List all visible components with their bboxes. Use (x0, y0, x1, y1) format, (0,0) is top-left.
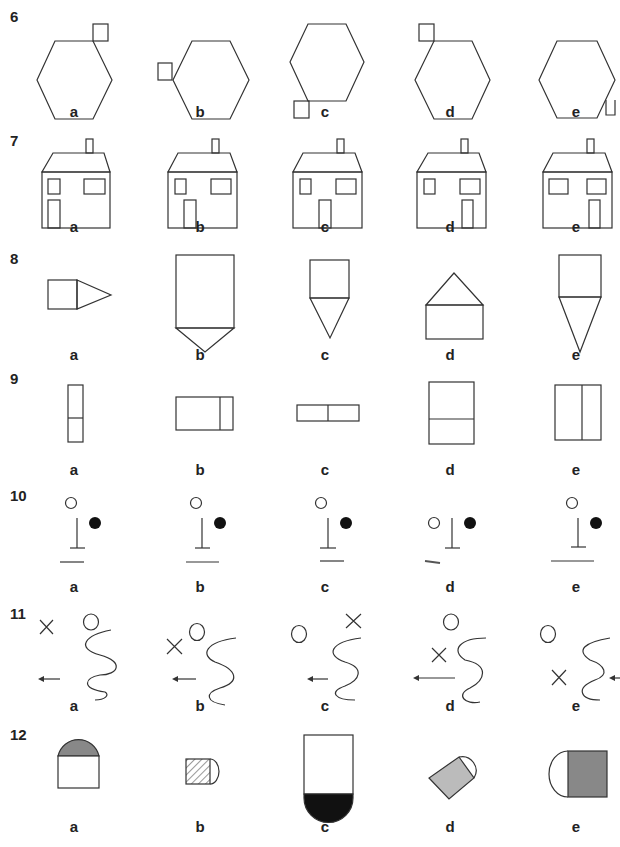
q12-option-b-label[interactable]: b (190, 818, 210, 835)
q12-option-d-figure (429, 757, 476, 799)
q8-option-a-label[interactable]: a (64, 346, 84, 363)
q8-option-c-figure (310, 260, 349, 338)
q11-option-c-label[interactable]: c (315, 697, 335, 714)
q6-option-a-label[interactable]: a (64, 103, 84, 120)
q6-option-b-label[interactable]: b (190, 103, 210, 120)
q10-option-c-label[interactable]: c (315, 578, 335, 595)
q10-option-d-label[interactable]: d (440, 578, 460, 595)
q12-option-c-label[interactable]: c (315, 818, 335, 835)
q10-option-d-figure (425, 517, 476, 563)
q10-option-a-figure (60, 498, 101, 563)
q9-option-e-figure (555, 385, 601, 440)
q11-option-b-figure (167, 624, 236, 706)
q8-option-e-figure (559, 255, 601, 352)
q9-option-d-figure (429, 382, 474, 444)
question-11-figures (0, 600, 620, 720)
q8-option-d-figure (426, 273, 483, 339)
q8-option-d-label[interactable]: d (440, 346, 460, 363)
question-10-figures (0, 480, 620, 600)
q7-option-c-label[interactable]: c (315, 218, 335, 235)
q12-option-e-label[interactable]: e (566, 818, 586, 835)
q10-option-e-label[interactable]: e (566, 578, 586, 595)
q7-option-b-label[interactable]: b (190, 218, 210, 235)
q11-option-d-label[interactable]: d (440, 697, 460, 714)
q10-option-e-figure (551, 498, 602, 562)
q11-option-c-figure (292, 614, 362, 700)
q9-option-c-figure (297, 405, 359, 421)
q8-option-c-label[interactable]: c (315, 346, 335, 363)
q12-option-c-figure (304, 735, 353, 823)
q11-option-a-figure (38, 614, 116, 700)
q11-option-e-figure (541, 626, 620, 701)
q11-option-d-figure (413, 614, 486, 703)
question-8-figures (0, 240, 620, 370)
question-7-figures (0, 125, 620, 240)
q9-option-d-label[interactable]: d (440, 461, 460, 478)
q7-option-d-label[interactable]: d (440, 218, 460, 235)
q9-option-e-label[interactable]: e (566, 461, 586, 478)
question-9-figures (0, 365, 620, 480)
q9-option-b-label[interactable]: b (190, 461, 210, 478)
q7-option-a-figure (42, 139, 110, 228)
q9-option-a-label[interactable]: a (64, 461, 84, 478)
q8-option-a-figure (48, 280, 111, 309)
q11-option-b-label[interactable]: b (190, 697, 210, 714)
q10-option-b-figure (186, 498, 226, 563)
q10-option-b-label[interactable]: b (190, 578, 210, 595)
q11-option-a-label[interactable]: a (64, 697, 84, 714)
q7-option-a-label[interactable]: a (64, 218, 84, 235)
q12-option-e-figure (549, 751, 607, 797)
q8-option-b-figure (176, 255, 234, 352)
q6-option-c-label[interactable]: c (315, 103, 335, 120)
q7-option-b-figure (168, 139, 237, 228)
q9-option-a-figure (68, 385, 83, 442)
q9-option-c-label[interactable]: c (315, 461, 335, 478)
q12-option-a-figure (58, 740, 99, 788)
q7-option-d-figure (417, 139, 486, 228)
question-12-figures (0, 720, 620, 847)
q6-option-e-label[interactable]: e (566, 103, 586, 120)
q9-option-b-figure (176, 397, 233, 430)
q12-option-d-label[interactable]: d (440, 818, 460, 835)
q6-option-d-label[interactable]: d (440, 103, 460, 120)
q12-option-b-figure (186, 759, 219, 784)
q7-option-c-figure (293, 139, 362, 228)
question-6-figures (0, 0, 620, 125)
q10-option-c-figure (316, 498, 353, 562)
q11-option-e-label[interactable]: e (566, 697, 586, 714)
q8-option-b-label[interactable]: b (190, 346, 210, 363)
q10-option-a-label[interactable]: a (64, 578, 84, 595)
q12-option-a-label[interactable]: a (64, 818, 84, 835)
q8-option-e-label[interactable]: e (566, 346, 586, 363)
q7-option-e-figure (543, 139, 612, 228)
q7-option-e-label[interactable]: e (566, 218, 586, 235)
